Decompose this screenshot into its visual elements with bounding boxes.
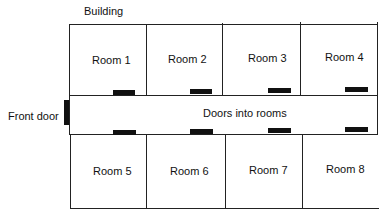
wall-top bbox=[69, 24, 378, 25]
divider-3-4 bbox=[300, 22, 301, 96]
door-room-2 bbox=[190, 89, 212, 94]
room-8-label: Room 8 bbox=[326, 163, 365, 175]
corridor-label: Doors into rooms bbox=[203, 107, 287, 119]
wall-left-bottom-row bbox=[70, 134, 71, 209]
wall-bottom bbox=[70, 208, 379, 209]
door-room-6 bbox=[190, 129, 213, 134]
room-3-label: Room 3 bbox=[248, 52, 287, 64]
room-6-label: Room 6 bbox=[170, 165, 209, 177]
front-door-label: Front door bbox=[8, 110, 59, 122]
door-room-3 bbox=[268, 88, 291, 93]
door-room-7 bbox=[268, 128, 291, 133]
door-room-1 bbox=[113, 90, 135, 95]
room-1-label: Room 1 bbox=[92, 54, 131, 66]
room-2-label: Room 2 bbox=[168, 53, 207, 65]
divider-2-3 bbox=[222, 23, 223, 96]
wall-left-corridor bbox=[69, 95, 70, 135]
wall-right-top-row bbox=[377, 22, 378, 96]
wall-corridor-top bbox=[69, 95, 378, 96]
divider-6-7 bbox=[225, 134, 226, 208]
divider-7-8 bbox=[302, 134, 303, 208]
building-title: Building bbox=[84, 5, 123, 17]
door-room-8 bbox=[345, 127, 368, 132]
wall-left-top-row bbox=[69, 24, 70, 96]
wall-right-corridor bbox=[377, 95, 378, 135]
front-door bbox=[64, 100, 69, 125]
door-room-5 bbox=[113, 130, 136, 135]
room-7-label: Room 7 bbox=[249, 164, 288, 176]
door-room-4 bbox=[345, 87, 368, 92]
room-5-label: Room 5 bbox=[93, 165, 132, 177]
divider-5-6 bbox=[146, 134, 147, 209]
divider-1-2 bbox=[146, 24, 147, 96]
room-4-label: Room 4 bbox=[325, 51, 364, 63]
